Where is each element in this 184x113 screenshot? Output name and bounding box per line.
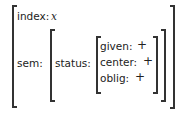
center-label: center:: [100, 56, 137, 68]
status-label: status:: [55, 57, 91, 69]
status-right-bracket: [153, 36, 158, 94]
given-label: given:: [100, 40, 132, 52]
center-value: +: [143, 55, 153, 67]
index-label: index:: [17, 10, 49, 22]
index-value: x: [51, 10, 57, 22]
oblig-label: oblig:: [100, 72, 129, 84]
sem-label: sem:: [17, 57, 43, 69]
given-value: +: [137, 39, 147, 51]
sem-right-bracket: [161, 29, 166, 102]
outer-right-bracket: [170, 5, 175, 109]
oblig-value: +: [135, 71, 145, 83]
